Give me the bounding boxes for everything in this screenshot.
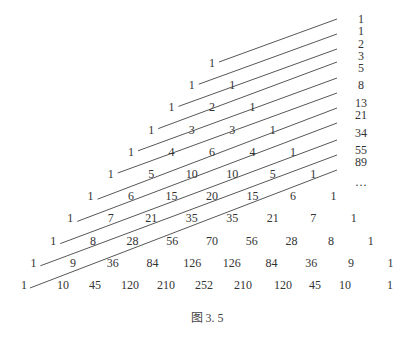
triangle-cell: 10 bbox=[226, 168, 238, 180]
triangle-cell: 1 bbox=[108, 168, 114, 180]
triangle-cell: 36 bbox=[305, 257, 317, 269]
triangle-cell: 1 bbox=[148, 124, 154, 136]
triangle-cell: 28 bbox=[127, 235, 139, 247]
triangle-cell: 1 bbox=[67, 212, 73, 224]
triangle-cell: 15 bbox=[247, 190, 259, 202]
triangle-cell: 1 bbox=[128, 146, 134, 158]
triangle-cell: 4 bbox=[169, 146, 175, 158]
triangle-cell: 1 bbox=[189, 79, 195, 91]
triangle-cell: 56 bbox=[246, 235, 258, 247]
triangle-cell: 1 bbox=[169, 101, 175, 113]
triangle-cell: 6 bbox=[290, 190, 296, 202]
triangle-cell: 21 bbox=[267, 212, 279, 224]
triangle-cell: 45 bbox=[309, 279, 321, 291]
diagonal-line bbox=[138, 78, 337, 151]
triangle-cell: 1 bbox=[351, 212, 357, 224]
triangle-cell: 210 bbox=[157, 279, 175, 291]
diagonal-line bbox=[77, 123, 337, 221]
fibonacci-label: 34 bbox=[355, 127, 367, 139]
fibonacci-label: 89 bbox=[355, 156, 367, 168]
triangle-cell: 10 bbox=[57, 279, 69, 291]
fibonacci-label: 1 bbox=[358, 25, 364, 37]
triangle-cell: 21 bbox=[145, 212, 157, 224]
triangle-cell: 7 bbox=[108, 212, 114, 224]
triangle-cell: 1 bbox=[290, 146, 296, 158]
triangle-cell: 1 bbox=[387, 279, 393, 291]
triangle-cell: 1 bbox=[21, 279, 27, 291]
triangle-cell: 45 bbox=[89, 279, 101, 291]
triangle-cell: 1 bbox=[88, 190, 94, 202]
triangle-cell: 35 bbox=[186, 212, 198, 224]
diagonal-line bbox=[179, 49, 338, 106]
triangle-cell: 5 bbox=[270, 168, 276, 180]
triangle-cell: 8 bbox=[328, 235, 334, 247]
triangle-cell: 210 bbox=[234, 279, 252, 291]
triangle-cell: 1 bbox=[331, 190, 337, 202]
triangle-cell: 84 bbox=[266, 257, 278, 269]
triangle-cell: 1 bbox=[270, 124, 276, 136]
triangle-cell: 9 bbox=[348, 257, 354, 269]
fibonacci-label: 21 bbox=[355, 109, 367, 121]
triangle-cell: 15 bbox=[166, 190, 178, 202]
triangle-cell: 28 bbox=[285, 235, 297, 247]
triangle-cell: 1 bbox=[368, 235, 374, 247]
triangle-cell: 1 bbox=[30, 257, 36, 269]
diagonal-lines bbox=[0, 0, 415, 345]
triangle-cell: 126 bbox=[183, 257, 201, 269]
triangle-cell: 6 bbox=[128, 190, 134, 202]
triangle-cell: 10 bbox=[339, 279, 351, 291]
triangle-cell: 36 bbox=[107, 257, 119, 269]
triangle-cell: 6 bbox=[209, 146, 215, 158]
triangle-cell: 4 bbox=[250, 146, 256, 158]
pascal-fibonacci-diagram: 1111211331146411510105116152015611721353… bbox=[0, 0, 415, 345]
triangle-cell: 70 bbox=[206, 235, 218, 247]
triangle-cell: 5 bbox=[148, 168, 154, 180]
triangle-cell: 1 bbox=[310, 168, 316, 180]
diagonal-line bbox=[30, 170, 337, 288]
triangle-cell: 8 bbox=[90, 235, 96, 247]
triangle-cell: 1 bbox=[229, 79, 235, 91]
triangle-cell: 35 bbox=[226, 212, 238, 224]
triangle-cell: 252 bbox=[195, 279, 213, 291]
triangle-cell: 56 bbox=[166, 235, 178, 247]
triangle-cell: 1 bbox=[50, 235, 56, 247]
triangle-cell: 7 bbox=[310, 212, 316, 224]
triangle-cell: 120 bbox=[274, 279, 292, 291]
triangle-cell: 3 bbox=[189, 124, 195, 136]
triangle-cell: 1 bbox=[388, 257, 394, 269]
triangle-cell: 84 bbox=[146, 257, 158, 269]
triangle-cell: 126 bbox=[223, 257, 241, 269]
triangle-cell: 10 bbox=[186, 168, 198, 180]
triangle-cell: 1 bbox=[209, 57, 215, 69]
triangle-cell: 1 bbox=[250, 101, 256, 113]
fibonacci-label: 8 bbox=[358, 79, 364, 91]
triangle-cell: 9 bbox=[70, 257, 76, 269]
triangle-cell: 20 bbox=[206, 190, 218, 202]
fibonacci-label: 5 bbox=[358, 62, 364, 74]
diagonal-line bbox=[199, 34, 337, 84]
triangle-cell: 120 bbox=[121, 279, 139, 291]
triangle-cell: 3 bbox=[229, 124, 235, 136]
triangle-cell: 2 bbox=[209, 101, 215, 113]
figure-caption: 图 3. 5 bbox=[191, 308, 224, 326]
fibonacci-label: … bbox=[355, 176, 367, 188]
